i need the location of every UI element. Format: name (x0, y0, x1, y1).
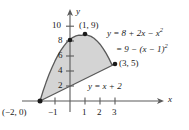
parabola-equation-line2-exponent: 2 (164, 42, 167, 49)
line-equation: y = x + 2 (88, 82, 122, 91)
parabola-equation-line2-text: = 9 − (x − 1) (116, 44, 164, 54)
y-tick-label-6: 6 (58, 51, 63, 60)
point-marker-1-9 (83, 32, 88, 37)
x-tick-label-2: 2 (97, 108, 102, 117)
x-tick-label-1: 1 (82, 108, 87, 117)
parabola-equation-line1-exponent: 2 (160, 26, 163, 33)
parabola-equation-line2: = 9 − (x − 1)2 (116, 43, 168, 54)
x-tick-label-3: 3 (112, 108, 117, 117)
point-label-1-9: (1, 9) (79, 21, 99, 30)
y-tick-label-4: 4 (58, 66, 63, 75)
parabola-equation-line1: y = 8 + 2x − x2 (107, 27, 163, 38)
parabola-equation-line1-text: y = 8 + 2x − x (107, 28, 160, 38)
y-tick-label-8: 8 (58, 36, 63, 45)
y-tick-label-2: 2 (58, 81, 63, 90)
x-axis-label: x (168, 95, 172, 104)
point-label-neg2-0: (−2, 0) (2, 108, 27, 117)
point-marker-3-5 (113, 62, 118, 67)
point-marker-0-8 (68, 38, 73, 43)
graph-figure: y x 10 8 6 4 2 −1 1 2 3 (1, 9) (3, 5) (−… (0, 0, 189, 130)
x-tick-label-neg1: −1 (48, 108, 58, 117)
point-marker-neg2-0 (38, 99, 43, 104)
y-tick-label-10: 10 (52, 21, 61, 30)
y-axis-label: y (76, 7, 80, 16)
point-label-3-5: (3, 5) (119, 59, 139, 68)
